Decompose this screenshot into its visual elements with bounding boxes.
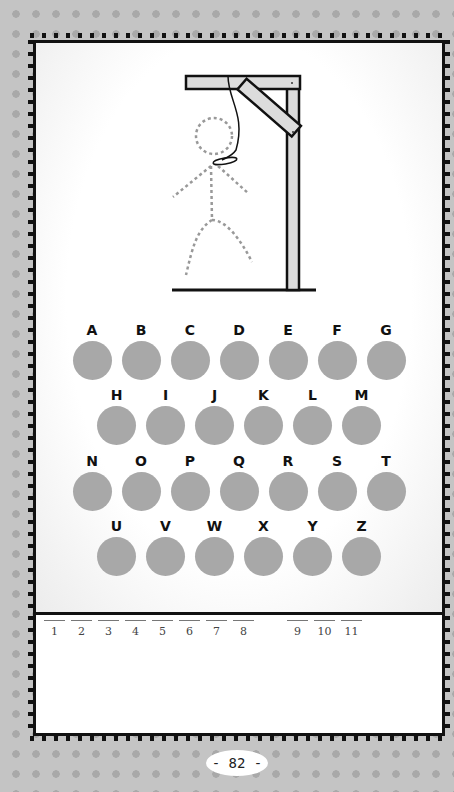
game-panel: A B C D E F G H I J K L M N O P Q R	[36, 43, 442, 612]
letter-label: A	[87, 321, 98, 339]
slot-number: 2	[78, 625, 85, 638]
letter-key-x[interactable]: X	[244, 517, 283, 576]
slot-number: 8	[240, 625, 247, 638]
letter-circle[interactable]	[171, 341, 210, 380]
blank-line	[98, 620, 119, 621]
letter-key-e[interactable]: E	[269, 321, 308, 380]
letter-key-n[interactable]: N	[73, 452, 112, 511]
letter-key-s[interactable]: S	[318, 452, 357, 511]
answer-slot[interactable]: 1	[44, 620, 65, 638]
letter-label: T	[381, 452, 391, 470]
letter-key-w[interactable]: W	[195, 517, 234, 576]
letter-circle[interactable]	[220, 341, 259, 380]
letter-circle[interactable]	[146, 406, 185, 445]
keyboard-row-2: H I J K L M	[36, 386, 442, 445]
answer-slot[interactable]: 8	[233, 620, 254, 638]
slot-number: 7	[213, 625, 220, 638]
letter-circle[interactable]	[220, 472, 259, 511]
letter-key-j[interactable]: J	[195, 386, 234, 445]
keyboard-row-4: U V W X Y Z	[36, 517, 442, 576]
letter-key-c[interactable]: C	[171, 321, 210, 380]
letter-circle[interactable]	[97, 406, 136, 445]
letter-circle[interactable]	[244, 537, 283, 576]
answer-slot[interactable]: 9	[287, 620, 308, 638]
letter-label: W	[207, 517, 222, 535]
letter-circle[interactable]	[97, 537, 136, 576]
letter-circle[interactable]	[146, 537, 185, 576]
letter-circle[interactable]	[367, 341, 406, 380]
letter-label: U	[111, 517, 122, 535]
letter-label: Z	[356, 517, 366, 535]
letter-circle[interactable]	[367, 472, 406, 511]
letter-key-k[interactable]: K	[244, 386, 283, 445]
letter-label: H	[111, 386, 123, 404]
letter-key-f[interactable]: F	[318, 321, 357, 380]
letter-circle[interactable]	[122, 341, 161, 380]
letter-label: M	[355, 386, 369, 404]
letter-circle[interactable]	[318, 472, 357, 511]
letter-key-b[interactable]: B	[122, 321, 161, 380]
slot-number: 9	[294, 625, 301, 638]
letter-key-m[interactable]: M	[342, 386, 381, 445]
letter-key-r[interactable]: R	[269, 452, 308, 511]
answer-slot[interactable]: 5	[152, 620, 173, 638]
letter-key-u[interactable]: U	[97, 517, 136, 576]
letter-circle[interactable]	[269, 341, 308, 380]
letter-key-v[interactable]: V	[146, 517, 185, 576]
letter-circle[interactable]	[269, 472, 308, 511]
slot-number: 5	[159, 625, 166, 638]
blank-line	[179, 620, 200, 621]
letter-label: F	[332, 321, 342, 339]
letter-key-t[interactable]: T	[367, 452, 406, 511]
letter-circle[interactable]	[342, 537, 381, 576]
letter-label: X	[258, 517, 269, 535]
letter-label: R	[283, 452, 294, 470]
letter-circle[interactable]	[318, 341, 357, 380]
letter-circle[interactable]	[73, 341, 112, 380]
border-ticks-top	[30, 33, 448, 38]
answer-slot[interactable]: 4	[125, 620, 146, 638]
letter-label: S	[332, 452, 342, 470]
letter-key-g[interactable]: G	[367, 321, 406, 380]
letter-circle[interactable]	[195, 537, 234, 576]
letter-key-q[interactable]: Q	[220, 452, 259, 511]
letter-circle[interactable]	[244, 406, 283, 445]
answer-slots: 1 2 3 4 5 6 7 8 9 10 11	[44, 620, 368, 638]
letter-key-y[interactable]: Y	[293, 517, 332, 576]
letter-circle[interactable]	[293, 406, 332, 445]
answer-slot[interactable]: 2	[71, 620, 92, 638]
blank-line	[233, 620, 254, 621]
slot-number: 1	[51, 625, 58, 638]
letter-key-d[interactable]: D	[220, 321, 259, 380]
answer-slot[interactable]: 10	[314, 620, 335, 638]
letter-key-o[interactable]: O	[122, 452, 161, 511]
page-number: - 82 -	[206, 750, 268, 776]
letter-label: N	[86, 452, 98, 470]
letter-key-z[interactable]: Z	[342, 517, 381, 576]
letter-key-i[interactable]: I	[146, 386, 185, 445]
letter-circle[interactable]	[171, 472, 210, 511]
letter-label: I	[163, 386, 168, 404]
letter-label: E	[283, 321, 293, 339]
answer-slot[interactable]: 6	[179, 620, 200, 638]
slot-number: 10	[318, 625, 332, 638]
letter-label: C	[185, 321, 195, 339]
letter-key-a[interactable]: A	[73, 321, 112, 380]
letter-circle[interactable]	[122, 472, 161, 511]
answer-slot[interactable]: 7	[206, 620, 227, 638]
blank-line	[71, 620, 92, 621]
letter-key-p[interactable]: P	[171, 452, 210, 511]
letter-circle[interactable]	[195, 406, 234, 445]
letter-label: D	[233, 321, 245, 339]
blank-line	[152, 620, 173, 621]
answer-slot[interactable]: 3	[98, 620, 119, 638]
letter-circle[interactable]	[342, 406, 381, 445]
letter-circle[interactable]	[293, 537, 332, 576]
answer-slot[interactable]: 11	[341, 620, 362, 638]
letter-key-h[interactable]: H	[97, 386, 136, 445]
letter-label: J	[212, 386, 217, 404]
blank-line	[314, 620, 335, 621]
letter-key-l[interactable]: L	[293, 386, 332, 445]
letter-label: L	[308, 386, 317, 404]
letter-circle[interactable]	[73, 472, 112, 511]
